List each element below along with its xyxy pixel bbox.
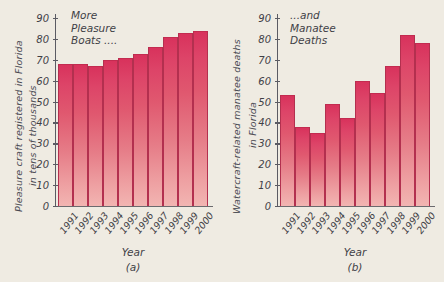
bar	[73, 64, 88, 206]
y-axis-tick-label: 80	[243, 33, 271, 44]
y-axis-tick-label: 60	[243, 75, 271, 86]
bar	[133, 54, 148, 206]
y-axis-tick-label: 50	[243, 96, 271, 107]
y-axis-tick-label: 20	[243, 159, 271, 170]
y-axis-tick-label: 40	[243, 117, 271, 128]
panel-b: Watercraft-related manatee deaths in Flo…	[222, 0, 444, 282]
y-axis-tick-label: 70	[243, 54, 271, 65]
y-axis-tick-label: 0	[21, 201, 49, 212]
bar	[58, 64, 73, 206]
bar	[163, 37, 178, 206]
bar	[280, 95, 295, 206]
x-axis-label: Year	[38, 246, 228, 258]
bar	[340, 118, 355, 206]
bar	[400, 35, 415, 206]
bar	[355, 81, 370, 206]
bar	[310, 133, 325, 206]
bar	[103, 60, 118, 206]
y-axis-line	[277, 14, 278, 207]
bar	[193, 31, 208, 206]
y-axis-tick-label: 50	[21, 96, 49, 107]
two-panel-bar-chart-figure: Pleasure craft registered in Florida in …	[0, 0, 444, 282]
y-axis-tick-label: 20	[21, 159, 49, 170]
panel-a: Pleasure craft registered in Florida in …	[0, 0, 222, 282]
bar	[148, 47, 163, 206]
y-axis-tick-label: 90	[243, 13, 271, 24]
y-axis-tick-label: 60	[21, 75, 49, 86]
x-axis-line	[55, 206, 213, 207]
y-axis-tick-label: 10	[243, 180, 271, 191]
bar-series	[58, 18, 208, 206]
y-axis-tick	[53, 206, 58, 207]
y-axis-tick-label: 90	[21, 13, 49, 24]
y-axis-tick-label: 80	[21, 33, 49, 44]
bar	[415, 43, 430, 206]
x-axis-line	[277, 206, 435, 207]
bar	[370, 93, 385, 206]
panel-caption: (b)	[260, 261, 444, 273]
panel-caption: (a)	[38, 261, 228, 273]
y-axis-tick	[275, 206, 280, 207]
bar	[88, 66, 103, 206]
bar	[295, 127, 310, 206]
bar	[325, 104, 340, 206]
y-axis-tick-label: 0	[243, 201, 271, 212]
bar	[385, 66, 400, 206]
y-axis-tick-label: 30	[243, 138, 271, 149]
y-axis-tick-label: 70	[21, 54, 49, 65]
y-axis-tick-label: 40	[21, 117, 49, 128]
bar	[118, 58, 133, 206]
y-axis-tick-label: 10	[21, 180, 49, 191]
y-axis-line	[55, 14, 56, 207]
bar	[178, 33, 193, 206]
x-axis-label: Year	[260, 246, 444, 258]
y-axis-tick-label: 30	[21, 138, 49, 149]
bar-series	[280, 18, 430, 206]
